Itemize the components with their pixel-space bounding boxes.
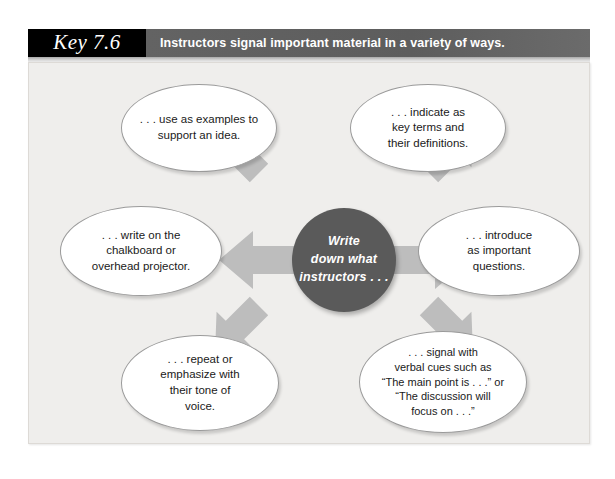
node-right-label: . . . introduce as important questions. xyxy=(458,228,540,275)
node-left: . . . write on the chalkboard or overhea… xyxy=(60,206,222,296)
key-number-block: Key 7.6 xyxy=(28,29,146,57)
figure-title: Instructors signal important material in… xyxy=(160,36,505,50)
node-right: . . . introduce as important questions. xyxy=(418,206,580,296)
figure-header: Key 7.6 Instructors signal important mat… xyxy=(28,29,590,57)
key-figure: Key 7.6 Instructors signal important mat… xyxy=(0,0,615,479)
node-top-right-label: . . . indicate as key terms and their de… xyxy=(380,105,477,152)
center-hub-label: Write down what instructors . . . xyxy=(299,233,389,286)
diagram-panel: Write down what instructors . . . . . . … xyxy=(28,62,590,444)
node-bottom-right-label: . . . signal with verbal cues such as “T… xyxy=(374,345,512,419)
node-bottom-right: . . . signal with verbal cues such as “T… xyxy=(359,331,527,433)
center-hub: Write down what instructors . . . xyxy=(292,208,396,312)
node-top-right: . . . indicate as key terms and their de… xyxy=(350,84,506,172)
node-bottom-left: . . . repeat or emphasize with their ton… xyxy=(121,335,279,431)
node-bottom-left-label: . . . repeat or emphasize with their ton… xyxy=(152,352,247,415)
node-top-left-label: . . . use as examples to support an idea… xyxy=(132,112,266,143)
node-top-left: . . . use as examples to support an idea… xyxy=(121,84,277,172)
key-number-label: Key 7.6 xyxy=(53,32,121,55)
node-left-label: . . . write on the chalkboard or overhea… xyxy=(84,228,198,275)
header-title-block: Instructors signal important material in… xyxy=(146,29,590,57)
